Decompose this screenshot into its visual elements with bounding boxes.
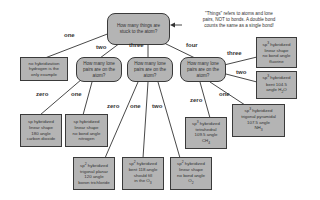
edge-label-four-zero: zero	[190, 97, 202, 103]
edge-label-three-two: two	[152, 103, 162, 109]
leaf-fluorine: sp3 hybridized linear shapeno bond angle…	[256, 37, 297, 68]
edge-label-two-zero: zero	[36, 91, 48, 97]
edge-label-four-one: one	[219, 91, 230, 97]
root-question-node: How many things are stuck to the atom?	[107, 13, 170, 45]
leaf-oxygen-linear: sp2 hybridized linear shapeno bond angle…	[170, 157, 212, 190]
edge-label-three-zero: zero	[107, 103, 119, 109]
note-line-3: counts the same as a single bond!	[183, 23, 295, 29]
edge-label-four-two: two	[236, 69, 246, 75]
edge-label-one: one	[64, 32, 75, 38]
leaf-ammonia: sp3 hybridized trigonal pyramidal107.5 a…	[232, 104, 285, 137]
edge-label-three: three	[129, 42, 144, 48]
edge-label-two-one: one	[71, 91, 82, 97]
leaf-boron-trichloride: sp2 hybridized trigonal planar120 angleb…	[73, 157, 115, 190]
leaf-water: sp3 hybridized bent 104.5 angle H2O	[256, 71, 297, 99]
leaf-methane: sp3 hybridized tetrahedral109.5 angle CH…	[185, 117, 227, 149]
leaf-nitrogen: sp hybridizedlinear shape no bond anglen…	[65, 114, 108, 147]
leaf-ozone-bent: sp2 hybridized bent 118 angleshould fill…	[122, 157, 164, 190]
leaf-carbon-dioxide: sp hybridizedlinear shape 180 anglecarbo…	[20, 114, 62, 147]
lone-pairs-question-four: How many lone pairs are on the atom?	[180, 57, 226, 82]
edge-label-four-three: three	[227, 50, 242, 56]
note-annotation: "Things" refers to atoms and lone pairs,…	[183, 11, 295, 29]
no-hybridization-box: no hybridization hydrogen is the only ex…	[20, 57, 68, 81]
edge-label-four: four	[186, 42, 198, 48]
lone-pairs-question-two: How many lone pairs are on the atom?	[76, 57, 122, 82]
edge-label-three-one: one	[130, 103, 141, 109]
lone-pairs-question-three: How many lone pairs are on the atom?	[127, 57, 173, 82]
edge-label-two: two	[96, 44, 106, 50]
